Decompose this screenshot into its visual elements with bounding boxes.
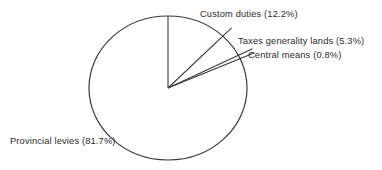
pie-slice-divider-3	[168, 53, 255, 88]
pie-label-provincial-levies: Provincial levies (81.7%)	[10, 136, 116, 147]
pie-slice-divider-1	[168, 28, 232, 88]
pie-label-central-means: Central means (0.8%)	[248, 50, 341, 61]
pie-chart-figure: Custom duties (12.2%) Taxes generality l…	[0, 0, 382, 170]
pie-slice-boundaries	[168, 16, 255, 88]
pie-slice-divider-2	[168, 49, 252, 88]
pie-label-custom-duties: Custom duties (12.2%)	[200, 9, 298, 20]
pie-label-taxes-generality-lands: Taxes generality lands (5.3%)	[238, 36, 364, 47]
